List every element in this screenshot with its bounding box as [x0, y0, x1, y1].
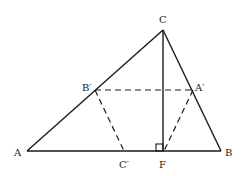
triangle-diagram: C A B B′ A′ C′ F — [0, 0, 243, 176]
right-angle-marker — [156, 144, 163, 151]
label-C-prime: C′ — [119, 159, 130, 170]
label-B-prime: B′ — [82, 82, 92, 93]
label-C: C — [159, 14, 167, 25]
label-F: F — [159, 159, 166, 170]
dashed-Aprime-F — [164, 90, 193, 151]
label-B: B — [225, 147, 232, 158]
label-A-prime: A′ — [194, 82, 205, 93]
side-BC — [163, 30, 221, 151]
dashed-Bprime-Cprime — [95, 90, 124, 151]
label-A: A — [13, 147, 22, 158]
